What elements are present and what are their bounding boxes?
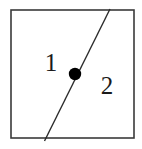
figure-canvas: 1 2 — [0, 0, 142, 149]
center-point — [69, 68, 81, 80]
region-label-1: 1 — [45, 49, 58, 76]
region-label-2: 2 — [101, 72, 114, 99]
figure-root: 1 2 — [0, 0, 142, 149]
